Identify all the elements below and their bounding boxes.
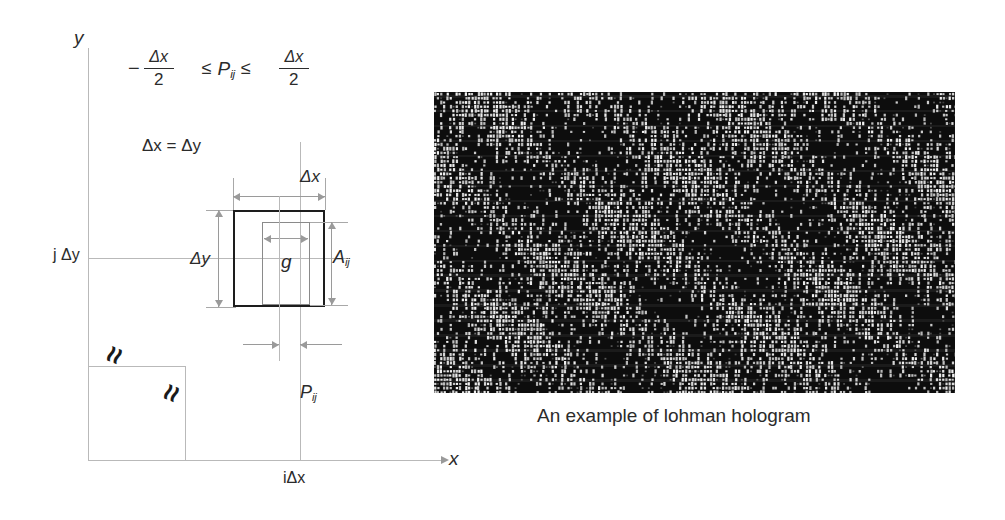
formula-numerator-left: Δx	[145, 49, 172, 66]
formula-fraction-bar-left	[144, 68, 174, 69]
aperture-area-label: Aij	[333, 248, 349, 268]
dim-dx-extension-right	[325, 178, 326, 210]
x-axis-label: x	[449, 449, 459, 468]
break-rect-right-line	[185, 366, 186, 460]
y-axis	[88, 48, 89, 460]
equality-delta-x-delta-y: Δx = Δy	[142, 137, 201, 154]
break-rect-top-line	[88, 366, 185, 367]
aperture-area-subscript: ij	[345, 256, 349, 268]
dim-dy-arrowhead-top	[215, 210, 223, 217]
hologram-canvas	[434, 92, 955, 393]
dim-aij-arrowhead-bottom	[328, 298, 336, 305]
dim-aij-arrowhead-top	[328, 222, 336, 229]
aperture-area-letter: A	[333, 247, 345, 267]
formula-fraction-bar-right	[279, 68, 309, 69]
dim-dx-arrowhead-left	[233, 193, 240, 201]
diagram-page: y x j Δy iΔx ≈ ≈ − Δx 2 ≤ Pij ≤	[0, 0, 1005, 520]
dim-dx-arrowhead-right	[318, 193, 325, 201]
dim-dy-arrowhead-bottom	[215, 300, 223, 307]
formula-variable-subscript: ij	[230, 67, 235, 80]
dim-pij-arrowhead-left	[272, 341, 279, 349]
formula-variable-letter: P	[218, 58, 231, 79]
hologram-image	[434, 92, 955, 393]
formula-relation-left: ≤	[202, 58, 212, 79]
dim-dy-label: Δy	[190, 250, 210, 267]
break-mark-vertical: ≈	[154, 380, 188, 407]
cell-center-line	[279, 196, 280, 361]
offset-letter: P	[300, 382, 312, 402]
formula-denominator-right: 2	[289, 71, 298, 89]
formula-relation-right: ≤	[241, 58, 251, 79]
formula-numerator-right: Δx	[280, 49, 307, 66]
formula-variable: Pij	[218, 58, 235, 80]
coordinate-diagram: y x j Δy iΔx ≈ ≈ − Δx 2 ≤ Pij ≤	[0, 0, 470, 520]
x-tick-label-i-delta-x: iΔx	[283, 470, 305, 486]
dim-pij-arrowhead-right	[300, 341, 307, 349]
dim-dy-extension-bottom	[206, 307, 236, 308]
hologram-caption: An example of lohman hologram	[537, 405, 811, 427]
x-axis-arrowhead	[441, 456, 449, 464]
inequality-formula: − Δx 2 ≤ Pij ≤ Δx 2	[128, 49, 309, 89]
dim-g-arrowhead-right	[301, 235, 308, 243]
dim-g-arrowhead-left	[264, 235, 271, 243]
formula-fraction-right: Δx 2	[279, 49, 309, 89]
formula-denominator-left: 2	[154, 71, 163, 89]
dim-dx-label: Δx	[300, 168, 320, 185]
y-axis-label: y	[74, 28, 84, 47]
break-mark-horizontal: ≈	[97, 342, 131, 369]
aperture-width-label: g	[281, 252, 292, 271]
formula-fraction-left: Δx 2	[144, 49, 174, 89]
offset-subscript: ij	[312, 391, 316, 403]
y-tick-label-j-delta-y: j Δy	[53, 247, 80, 263]
dim-aij-line	[331, 222, 332, 305]
x-axis	[88, 460, 443, 461]
dim-aij-extension-bottom	[310, 305, 348, 306]
formula-minus-sign: −	[128, 57, 140, 80]
dim-dy-line	[218, 210, 219, 307]
offset-pij-label: Pij	[300, 383, 316, 403]
